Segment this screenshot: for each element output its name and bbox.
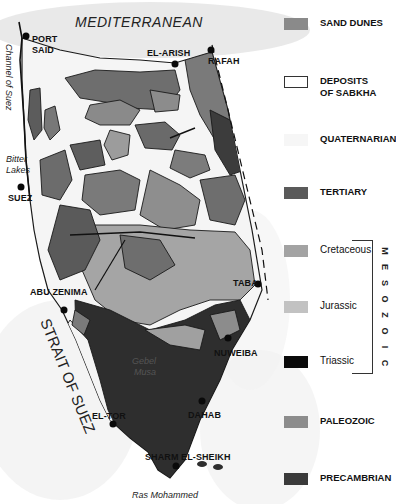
legend-swatch-paleozoic	[284, 416, 308, 428]
mountain-label-gebel: Gebel	[132, 356, 156, 366]
mesozoic-bracket	[352, 240, 373, 374]
legend-item-sand-dunes: SAND DUNES	[284, 17, 383, 30]
legend-label: SAND DUNES	[320, 17, 383, 29]
legend-swatch-quaternarian	[284, 134, 308, 146]
city-label-dahab: DAHAB	[188, 410, 221, 420]
city-label-nuweiba: NUWEIBA	[214, 348, 258, 358]
legend-swatch-cretaceous	[284, 245, 308, 257]
legend-label: Triassic	[320, 355, 354, 367]
city-label-abu-zenima: ABU ZENIMA	[30, 287, 88, 297]
legend-swatch-precambrian	[284, 473, 308, 485]
legend-swatch-triassic	[284, 356, 308, 368]
era-label-mesozoic: M E S O Z O I C	[380, 243, 390, 371]
legend-label: DEPOSITSOF SABKHA	[320, 75, 376, 99]
city-label-el-arish: EL-ARISH	[147, 48, 190, 58]
legend-item-paleozoic: PALEOZOIC	[284, 415, 375, 428]
legend-swatch-jurassic	[284, 301, 308, 313]
legend-label: QUATERNARIAN	[320, 133, 396, 145]
city-label-taba: TABA	[233, 278, 258, 288]
legend-label: PALEOZOIC	[320, 415, 375, 427]
legend-item-tertiary: TERTIARY	[284, 186, 367, 199]
legend-label: TERTIARY	[320, 186, 367, 198]
water-label-bitter: Bitter	[6, 154, 27, 164]
city-label-port-said: PORTSAID	[32, 34, 57, 56]
city-label-sharm-el-sheikh: SHARM EL-SHEIKH	[145, 452, 231, 462]
water-label-ras-mohammed: Ras Mohammed	[132, 490, 198, 500]
legend-label: PRECAMBRIAN	[320, 472, 391, 484]
legend-item-deposits-of-sabkha: DEPOSITSOF SABKHA	[284, 75, 376, 99]
sea-label-mediterranean: MEDITERRANEAN	[75, 14, 203, 30]
mountain-label-musa: Musa	[134, 367, 156, 377]
legend-item-quaternarian: QUATERNARIAN	[284, 133, 396, 146]
city-label-suez: SUEZ	[8, 193, 32, 203]
legend-item-jurassic: Jurassic	[284, 300, 357, 313]
city-label-rafah: RAFAH	[208, 56, 240, 66]
water-label-lakes: Lakes	[6, 165, 30, 175]
city-label-el-tor: EL-TOR	[92, 411, 126, 421]
water-label-channel-of-suez: Channel of Suez	[4, 44, 14, 111]
legend-swatch-tertiary	[284, 187, 308, 199]
legend-swatch-sabkha	[284, 76, 308, 88]
legend-item-triassic: Triassic	[284, 355, 354, 368]
legend-item-precambrian: PRECAMBRIAN	[284, 472, 391, 485]
legend-swatch-sand-dunes	[284, 18, 308, 30]
